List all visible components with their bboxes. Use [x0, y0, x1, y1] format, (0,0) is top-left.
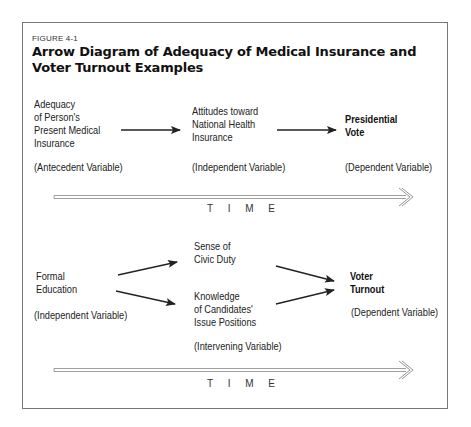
arrow-education-to-knowledge	[116, 291, 175, 304]
time-arrow-1	[54, 188, 413, 206]
arrow-knowledge-to-turnout	[276, 290, 334, 304]
arrow-education-to-civic	[118, 262, 177, 275]
arrow-civic-to-turnout	[276, 266, 334, 281]
arrows-layer	[0, 0, 471, 427]
time-arrow-2	[54, 361, 413, 379]
